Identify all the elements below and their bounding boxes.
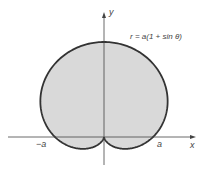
tick-label-neg-a: −a	[36, 139, 46, 149]
cardioid-diagram	[0, 0, 201, 170]
y-axis-label: y	[109, 7, 114, 17]
x-axis-arrow-icon	[190, 135, 196, 139]
x-axis-label: x	[190, 140, 195, 150]
equation-label: r = a(1 + sin θ)	[130, 32, 182, 41]
y-axis-arrow-icon	[102, 12, 106, 18]
tick-label-a: a	[157, 139, 162, 149]
